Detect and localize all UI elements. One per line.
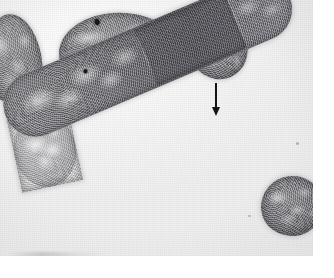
plate-bottom-smudge <box>8 252 104 256</box>
endospore-pointer-arrow-icon <box>211 83 221 116</box>
debris-speck <box>296 142 299 145</box>
micrograph-plate <box>0 0 313 256</box>
arrow-head <box>212 107 220 116</box>
bacterium-oval-lower-right <box>258 173 313 239</box>
micrograph-figure: Dr. Daniel Williams, Lilly Research Labo… <box>0 0 334 278</box>
bacterium-rod-main-with-endospore <box>0 0 302 146</box>
debris-speck <box>53 110 55 112</box>
debris-speck <box>68 101 71 104</box>
arrow-shaft <box>215 83 217 109</box>
cell-body <box>258 173 313 239</box>
debris-speck <box>73 105 75 107</box>
debris-speck <box>248 215 251 217</box>
